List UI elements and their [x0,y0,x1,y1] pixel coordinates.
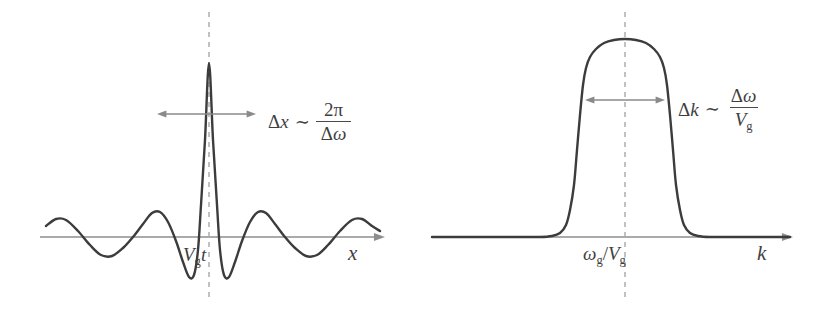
spectrum-curve [432,39,790,237]
left-width-relation: Δx ∼ 2π Δω [268,100,351,143]
denominator-subscript: g [746,119,752,133]
fraction-numerator: Δω [726,86,762,107]
delta-symbol: Δ [678,99,690,120]
fraction-2pi-over-delta-omega: 2π Δω [316,100,352,143]
span-arrow-head-left [157,111,166,118]
figure-root: x Vgt Δx ∼ 2π Δω k ωg/Vg Δk ∼ Δω [0,0,825,312]
denominator-omega: ω [333,123,346,144]
vg-subscript: g [620,253,626,267]
wave-packet-curve [46,63,380,279]
numerator-delta: Δ [731,85,743,106]
x-axis-label: x [348,243,357,264]
delta-x-group: Δx [268,112,289,131]
span-arrow-head-right [656,97,665,104]
denominator-delta: Δ [321,123,333,144]
fraction-denominator: Δω [316,121,352,143]
left-centre-tick-label: Vgt [183,245,206,267]
k-axis-label: k [757,243,766,264]
delta-symbol: Δ [268,111,280,132]
fraction-numerator: 2π [319,100,348,121]
k-symbol: k [690,99,698,120]
vg-symbol: V [183,244,195,265]
right-centre-tick-label: ωg/Vg [583,244,626,266]
denominator-v: V [735,109,747,130]
span-arrow-head-right [247,111,256,118]
numerator-omega: ω [743,85,756,106]
tilde-symbol: ∼ [705,100,720,118]
span-arrow-head-left [585,97,594,104]
fraction-delta-omega-over-vg: Δω Vg [726,86,762,132]
tilde-symbol: ∼ [295,113,310,131]
delta-k-group: Δk [678,100,699,119]
t-symbol: t [201,244,206,265]
fraction-denominator: Vg [730,107,758,132]
x-axis-arrowhead [374,233,385,241]
omega-symbol: ω [583,243,596,264]
vg-symbol: V [608,243,620,264]
right-width-relation: Δk ∼ Δω Vg [678,86,761,132]
x-symbol: x [280,111,288,132]
